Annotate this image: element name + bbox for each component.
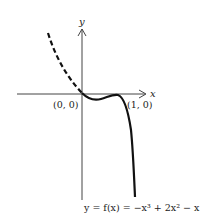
point-label-one-zero: (1, 0) [127, 99, 153, 110]
equation-label: y = f(x) = −x³ + 2x² − x [83, 202, 200, 213]
function-graph-figure: x y (0, 0) (1, 0) y = f(x) = −x³ + 2x² −… [0, 0, 202, 218]
point-label-origin: (0, 0) [53, 99, 79, 110]
x-axis-label: x [150, 88, 156, 99]
y-axis-label: y [78, 16, 85, 27]
curve-dashed-segment [48, 33, 82, 93]
y-axis [78, 29, 86, 200]
